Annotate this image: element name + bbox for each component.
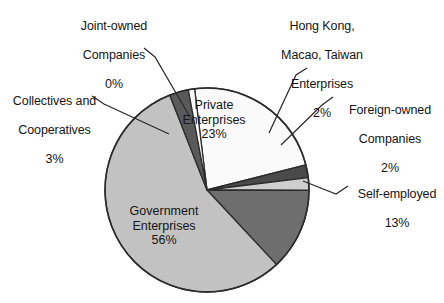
slice-label-private-enterprises-percent: 23% — [168, 127, 260, 142]
label-collectives-and-cooperatives-line1: Collectives and — [2, 94, 107, 109]
label-self-employed-percent: 13% — [350, 216, 444, 231]
label-collectives-and-cooperatives: Collectives and Cooperatives 3% — [2, 79, 107, 181]
label-hong-kong-macao-taiwan-enterprises-line1: Hong Kong, — [258, 19, 386, 34]
label-foreign-owned-companies-line2: Companies — [338, 132, 442, 147]
slice-label-private-enterprises: Private Enterprises 23% — [168, 98, 260, 142]
label-self-employed: Self-employed 13% — [350, 172, 444, 245]
slice-label-government-enterprises-line1: Government — [108, 204, 220, 219]
slice-label-government-enterprises: Government Enterprises 56% — [108, 204, 220, 248]
slice-label-government-enterprises-percent: 56% — [108, 233, 220, 248]
slice-label-government-enterprises-line2: Enterprises — [108, 219, 220, 234]
label-hong-kong-macao-taiwan-enterprises-line2: Macao, Taiwan — [258, 48, 386, 63]
label-joint-owned-companies-line2: Companies — [44, 48, 184, 63]
slice-label-private-enterprises-line1: Private — [168, 98, 260, 113]
label-collectives-and-cooperatives-percent: 3% — [2, 152, 107, 167]
label-self-employed-line1: Self-employed — [350, 187, 444, 202]
slice-label-private-enterprises-line2: Enterprises — [168, 113, 260, 128]
label-foreign-owned-companies-line1: Foreign-owned — [338, 103, 442, 118]
label-joint-owned-companies-line1: Joint-owned — [44, 19, 184, 34]
pie-chart-figure: Joint-owned Companies 0% Collectives and… — [0, 0, 444, 303]
label-collectives-and-cooperatives-line2: Cooperatives — [2, 123, 107, 138]
